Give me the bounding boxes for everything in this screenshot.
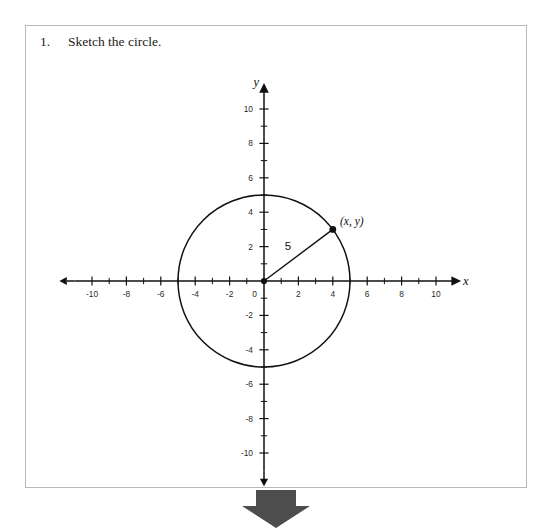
- y-minor-ticks: [261, 126, 267, 436]
- y-tick-label: 2: [248, 242, 253, 252]
- problem-number: 1.: [40, 34, 68, 50]
- x-major-ticks: [92, 276, 436, 285]
- x-tick-label: 8: [399, 289, 404, 299]
- worksheet-card: 1. Sketch the circle.: [25, 25, 527, 488]
- x-axis-left-arrowhead: [59, 277, 66, 285]
- y-tick-label: 4: [248, 207, 253, 217]
- x-tick-label: 4: [330, 289, 335, 299]
- x-tick-label: 2: [296, 289, 301, 299]
- x-tick-labels: -10 -8 -6 -4 -2 2 4 6 8 10: [86, 289, 441, 299]
- x-tick-label: 6: [365, 289, 370, 299]
- problem-statement: 1. Sketch the circle.: [40, 34, 161, 50]
- x-axis-label: x: [462, 274, 469, 288]
- radius-length-label: 5: [285, 240, 291, 252]
- scroll-down-indicator[interactable]: [0, 488, 553, 530]
- y-tick-label: -4: [246, 345, 254, 355]
- y-tick-label: -8: [246, 414, 254, 424]
- y-tick-label: 6: [248, 173, 253, 183]
- problem-text: Sketch the circle.: [68, 34, 161, 50]
- axis-x: [59, 277, 453, 285]
- y-tick-label: -6: [246, 379, 254, 389]
- y-tick-label: 8: [248, 138, 253, 148]
- point-marker-xy: [329, 226, 336, 233]
- x-tick-label: 10: [431, 289, 441, 299]
- x-tick-label: -8: [123, 289, 131, 299]
- y-major-ticks: [259, 109, 268, 453]
- y-axis-label: y: [251, 75, 259, 89]
- y-tick-label: 10: [244, 104, 254, 114]
- origin-label: 0: [252, 289, 257, 299]
- y-tick-labels: 10 8 6 4 2 -2 -4 -6 -8 -10: [241, 104, 253, 458]
- point-marker-origin: [261, 278, 267, 284]
- y-tick-label: -2: [246, 310, 254, 320]
- point-label-xy: (x, y): [340, 215, 364, 228]
- x-minor-ticks: [109, 278, 419, 284]
- page-root: 1. Sketch the circle.: [0, 0, 553, 530]
- y-tick-label: -10: [241, 448, 253, 458]
- coordinate-graph: -10 -8 -6 -4 -2 2 4 6 8 10 10 8 6 4: [26, 26, 528, 489]
- radius-segment: [264, 229, 333, 281]
- circle-shape: [178, 195, 350, 367]
- x-tick-label: -6: [157, 289, 165, 299]
- axis-y: [260, 90, 268, 486]
- graph-svg: -10 -8 -6 -4 -2 2 4 6 8 10 10 8 6 4: [26, 26, 528, 489]
- x-tick-label: -2: [226, 289, 234, 299]
- x-tick-label: -4: [191, 289, 199, 299]
- y-axis-down-arrowhead: [260, 479, 268, 486]
- x-tick-label: -10: [86, 289, 98, 299]
- down-arrow-icon[interactable]: [0, 488, 553, 530]
